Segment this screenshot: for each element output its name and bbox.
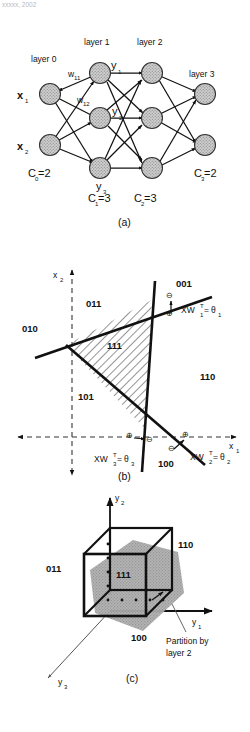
cube-axis-label-y2: y (115, 493, 120, 503)
axis-label-x1: x (229, 441, 234, 451)
cube-axis-sub-y2: 2 (121, 500, 125, 506)
panel-a-caption: (a) (118, 216, 131, 228)
region-label-110: 110 (200, 371, 215, 382)
line-eq-2-prefix: XW (190, 452, 204, 462)
cube-label-100: 100 (131, 632, 147, 643)
input-labels: x 1 x 2 (17, 89, 29, 155)
annotation-leader (172, 604, 186, 632)
panel-a: layer 1 layer 2 layer 0 layer 3 (17, 37, 217, 228)
cube-axis-label-y1: y (192, 617, 197, 627)
sign-markers-line-1: ⊖ ⊕ (166, 291, 173, 318)
panel-b: x 2 x 1 011 010 001 110 101 111 100 ⊖ ⊕ … (18, 270, 240, 482)
node-layer2-0 (142, 63, 163, 84)
sign-minus-line1: ⊖ (166, 291, 173, 300)
region-label-011: 011 (86, 298, 102, 309)
cube-axis-sub-y1: 1 (198, 624, 202, 630)
cube-label-011: 011 (46, 563, 62, 574)
line-eq-3-theta-sub: 3 (131, 461, 135, 467)
line-eq-3-theta: θ (124, 454, 129, 464)
weight-sub-w11: 11 (74, 75, 81, 81)
axis-label-x2: x (53, 270, 58, 280)
line-eq-3: XW 3 T = θ 3 (94, 452, 135, 467)
count-val-c0: =2 (38, 167, 51, 179)
node-layer3-1 (195, 135, 216, 156)
region-label-111: 111 (107, 340, 123, 351)
line-eq-2: XW 2 T = θ 2 (190, 450, 231, 465)
hidden-label-y1: y (111, 59, 117, 71)
node-layer2-1 (142, 108, 163, 129)
count-val-c3: =2 (204, 167, 217, 179)
annotation-line-2: layer 2 (166, 648, 192, 658)
axis-y3 (48, 611, 110, 678)
region-111-hatched (66, 300, 152, 430)
cube-axis-label-y3: y (58, 677, 63, 687)
node-layer0-0 (40, 84, 61, 105)
input-sub-x1: 1 (25, 98, 29, 104)
line-eq-3-prefix: XW (94, 454, 108, 464)
line-eq-2-theta-sub: 2 (227, 459, 231, 465)
region-label-100: 100 (158, 458, 174, 469)
panel-c: 011 110 111 100 y 2 y 1 y 3 Partition by… (46, 493, 212, 690)
layer-label-1: layer 1 (84, 37, 110, 47)
figure-canvas: xxxxx, 2002 layer 1 layer 2 layer 0 laye… (0, 0, 250, 732)
panel-c-caption: (c) (126, 672, 138, 684)
node-layer1-1 (90, 108, 111, 129)
node-layer1-2 (90, 158, 111, 179)
region-label-010: 010 (22, 323, 38, 334)
line-eq-1: XW 1 T = θ 1 (181, 303, 222, 318)
line-eq-1-theta-sub: 1 (218, 312, 222, 318)
node-layer2-2 (142, 158, 163, 179)
input-label-x1: x (17, 89, 24, 101)
panel-b-caption: (b) (118, 470, 131, 482)
layer-label-3: layer 3 (189, 69, 215, 79)
hidden-label-y3: y (96, 180, 102, 192)
line-eq-3-equals: = (117, 454, 122, 464)
axis-sub-x2: 2 (60, 277, 64, 283)
count-labels: C 0 =2 C 1 =3 C 2 =3 C 3 =2 (28, 167, 217, 207)
sign-minus-line3: ⊖ (146, 435, 153, 444)
node-layer0-1 (40, 135, 61, 156)
layer-label-0: layer 0 (31, 54, 57, 64)
cube-axis-sub-y3: 3 (64, 684, 68, 690)
node-layer3-0 (195, 84, 216, 105)
page-header-text: xxxxx, 2002 (2, 1, 37, 8)
sign-plus-line2: ⊕ (182, 430, 189, 439)
layer-label-2: layer 2 (137, 37, 163, 47)
input-label-x2: x (17, 140, 24, 152)
edges-layer2-layer3 (159, 76, 197, 166)
node-layer1-0 (90, 63, 111, 84)
line-eq-1-theta: θ (211, 305, 216, 315)
line-eq-2-equals: = (213, 452, 218, 462)
cube-label-111: 111 (116, 569, 132, 580)
hidden-sub-y1: 1 (118, 69, 122, 75)
axis-sub-x1: 1 (236, 448, 240, 454)
region-label-001: 001 (176, 278, 193, 289)
figure-root: xxxxx, 2002 layer 1 layer 2 layer 0 laye… (0, 0, 250, 732)
line-eq-2-theta: θ (220, 452, 225, 462)
sign-plus-line3: ⊕ (126, 431, 133, 440)
cube-label-110: 110 (178, 539, 193, 550)
region-label-101: 101 (78, 391, 95, 402)
line-eq-1-prefix: XW (181, 305, 195, 315)
line-eq-1-equals: = (204, 305, 209, 315)
weight-sub-w12: 12 (83, 101, 90, 107)
weight-labels: w 11 w 12 (67, 69, 90, 107)
hidden-label-y2: y (112, 105, 118, 117)
count-val-c2: =3 (144, 192, 157, 204)
sign-plus-line1: ⊕ (166, 309, 173, 318)
input-sub-x2: 2 (25, 149, 29, 155)
count-val-c1: =3 (98, 192, 111, 204)
annotation-line-1: Partition by (166, 636, 209, 646)
